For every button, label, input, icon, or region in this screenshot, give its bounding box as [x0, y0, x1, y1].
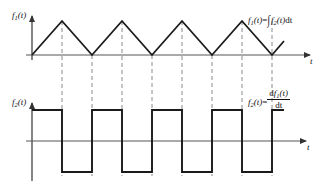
figure-container: f1(t) t f1(t)=∫f2(t)dt f2(t) t f2(t)= df… [0, 0, 334, 186]
dashed-connectors [62, 21, 272, 176]
bottom-equation-lhs-arg: (t) [254, 97, 263, 107]
bottom-equation: f2(t)= df1(t) dt [248, 92, 290, 115]
derivative-fraction: df1(t) dt [267, 88, 290, 111]
top-signal-label: f1(t) [12, 11, 26, 22]
top-equation: f1(t)=∫f2(t)dt [248, 13, 292, 27]
top-equation-differential: dt [285, 15, 292, 25]
top-equation-integrand-arg: (t) [277, 15, 286, 25]
integral-sign-icon: ∫ [268, 13, 271, 26]
top-equation-lhs: f1(t) [248, 16, 262, 27]
bottom-axis-label-t: t [307, 143, 310, 152]
derivative-numerator-arg: (t) [280, 88, 289, 98]
bottom-equation-lhs: f2(t) [248, 98, 262, 109]
top-signal-label-arg: (t) [18, 10, 27, 20]
top-equation-lhs-arg: (t) [254, 15, 263, 25]
derivative-numerator: df1(t) [267, 88, 290, 100]
bottom-signal-label-arg: (t) [18, 97, 27, 107]
top-axis-label-t: t [310, 57, 313, 66]
derivative-denominator: dt [267, 100, 290, 110]
triangular-wave-curve [32, 21, 284, 55]
bottom-signal-label: f2(t) [12, 98, 26, 109]
